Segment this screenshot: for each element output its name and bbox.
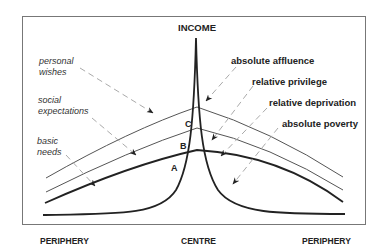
arrow-relative-deprivation bbox=[221, 108, 267, 156]
label-relative-deprivation: relative deprivation bbox=[269, 97, 356, 108]
axis-label-centre: CENTRE bbox=[181, 236, 216, 246]
diagram-title: INCOME bbox=[178, 22, 216, 33]
point-label-a: A bbox=[171, 163, 178, 173]
point-label-b: B bbox=[180, 141, 187, 151]
arrow-relative-privilege bbox=[212, 86, 253, 140]
label-personal-wishes: personal wishes bbox=[39, 56, 74, 78]
label-basic-needs: basic needs bbox=[37, 136, 62, 158]
label-social-expectations: social expectations bbox=[38, 95, 89, 117]
label-relative-privilege: relative privilege bbox=[252, 76, 327, 87]
axis-label-right-periphery: PERIPHERY bbox=[302, 236, 351, 246]
axis-label-left-periphery: PERIPHERY bbox=[40, 236, 89, 246]
curve-basic-needs bbox=[45, 150, 343, 203]
curve-social-expectations bbox=[46, 128, 343, 192]
arrow-personal-wishes bbox=[80, 68, 153, 113]
point-label-c: C bbox=[185, 119, 192, 129]
label-absolute-poverty: absolute poverty bbox=[282, 118, 358, 129]
arrow-absolute-affluence bbox=[206, 67, 236, 101]
label-absolute-affluence: absolute affluence bbox=[231, 55, 314, 66]
